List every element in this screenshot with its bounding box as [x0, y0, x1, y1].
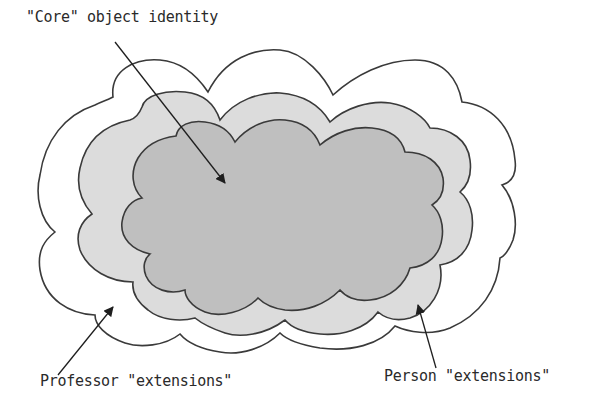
identity-layers-diagram	[0, 0, 614, 406]
core-identity-cloud	[122, 120, 444, 315]
professor-extensions-arrow	[58, 307, 113, 375]
professor-extensions-label: Professor "extensions"	[40, 372, 232, 390]
core-identity-label: "Core" object identity	[26, 8, 218, 26]
person-extensions-label: Person "extensions"	[384, 367, 550, 385]
